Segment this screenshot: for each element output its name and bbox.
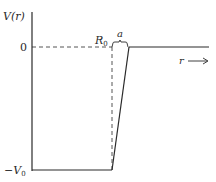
well-edge-slope [112,47,129,170]
potential-diagram: V(r) 0 r R0 a −V0 [0,0,216,182]
radius-label: R0 [94,34,108,48]
bottom-label: −V0 [4,164,26,178]
zero-label: 0 [20,41,27,54]
y-axis-label: V(r) [3,10,25,23]
diffuseness-brace [112,40,128,47]
diffuseness-label: a [117,28,123,39]
r-axis-label: r [179,55,185,66]
